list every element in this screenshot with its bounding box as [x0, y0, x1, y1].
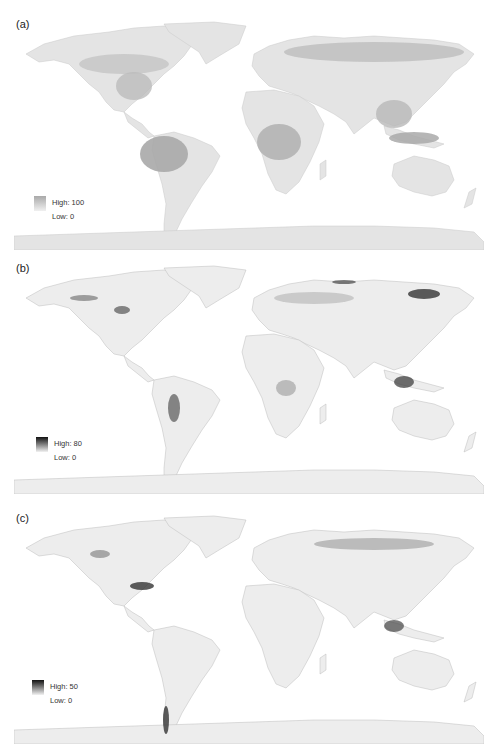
- world-map-a: [14, 14, 484, 250]
- world-map-c: [14, 508, 484, 744]
- legend-gradient-b: [36, 437, 48, 452]
- legend-high-a: High: 100: [52, 196, 84, 210]
- legend-low-c: Low: 0: [50, 694, 78, 708]
- legend-low-a: Low: 0: [52, 210, 84, 224]
- legend-gradient-a: [34, 196, 46, 211]
- panel-a: (a) High: 100 Low: 0: [0, 0, 497, 250]
- legend-c: High: 50 Low: 0: [32, 680, 78, 708]
- panel-c: (c) High: 50 Low: 0: [0, 500, 497, 755]
- legend-gradient-c: [32, 680, 44, 695]
- panel-b: (b) High: 80 Low: 0: [0, 250, 497, 500]
- legend-a: High: 100 Low: 0: [34, 196, 84, 224]
- world-map-b: [14, 258, 484, 494]
- legend-b: High: 80 Low: 0: [36, 437, 82, 465]
- legend-high-b: High: 80: [54, 437, 82, 451]
- legend-high-c: High: 50: [50, 680, 78, 694]
- legend-low-b: Low: 0: [54, 451, 82, 465]
